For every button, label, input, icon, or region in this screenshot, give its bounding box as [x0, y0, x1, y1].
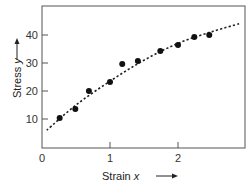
data-point — [135, 58, 141, 64]
data-point — [175, 42, 181, 48]
y-axis-ticks: 10203040 — [26, 29, 48, 125]
data-point — [107, 79, 113, 85]
x-axis-ticks: 012 — [39, 142, 181, 164]
y-tick-label: 30 — [26, 57, 38, 69]
plot-area: 10203040 012 Strain x Stress y — [0, 0, 252, 187]
fitted-curve — [47, 24, 239, 130]
x-tick-label: 0 — [39, 152, 45, 164]
x-tick-label: 1 — [107, 152, 113, 164]
data-point — [191, 34, 197, 40]
plot-frame — [42, 6, 245, 148]
data-point — [72, 106, 78, 112]
x-tick-label: 2 — [175, 152, 181, 164]
y-tick-label: 40 — [26, 29, 38, 41]
data-point — [86, 88, 92, 94]
data-point — [157, 48, 163, 54]
data-point — [119, 61, 125, 67]
data-points — [57, 32, 213, 121]
y-tick-label: 20 — [26, 85, 38, 97]
y-axis-label: Stress y — [11, 57, 23, 98]
y-axis-arrow-icon — [15, 38, 20, 60]
x-axis-label: Strain x — [102, 170, 140, 182]
x-axis-arrow-icon — [156, 174, 178, 179]
data-point — [57, 115, 63, 121]
y-tick-label: 10 — [26, 113, 38, 125]
data-point — [206, 32, 212, 38]
stress-strain-chart: 10203040 012 Strain x Stress y — [0, 0, 252, 187]
